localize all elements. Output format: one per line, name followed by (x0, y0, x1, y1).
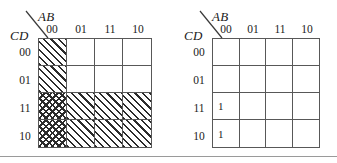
kmap-left-cell-0-1[interactable] (67, 39, 95, 66)
kmap-right-cell-2-2[interactable] (266, 93, 293, 120)
kmap-left-rowhdr-3: 10 (14, 129, 36, 143)
kmap-left-colhdr-2: 11 (96, 22, 124, 36)
kmap-right-rowhdr-2: 11 (188, 101, 210, 115)
kmap-left-cell-1-3[interactable] (123, 66, 151, 93)
kmap-left-cell-2-2[interactable] (95, 93, 123, 120)
kmap-right-rowhdr-0: 00 (188, 45, 210, 59)
kmap-right-cell-0-1[interactable] (240, 39, 267, 66)
kmap-left-column-headers: 00 01 11 10 (38, 22, 152, 36)
kmap-right-cell-3-3[interactable] (293, 120, 320, 147)
kmap-left-cell-0-0[interactable] (39, 39, 67, 66)
kmap-right-cell-3-0[interactable]: 1 (213, 120, 240, 147)
kmap-right-column-headers: 00 01 11 10 (212, 22, 320, 36)
kmap-left-colhdr-3: 10 (124, 22, 152, 36)
kmap-left-cell-0-2[interactable] (95, 39, 123, 66)
kmap-right-cell-0-0[interactable] (213, 39, 240, 66)
bottom-horizontal-rule (0, 156, 337, 157)
kmap-left: AB CD 00 01 11 10 00 01 11 10 (0, 0, 168, 155)
kmap-right-cell-2-3[interactable] (293, 93, 320, 120)
kmap-left-cell-3-3[interactable] (123, 120, 151, 147)
kmap-left-cell-1-1[interactable] (67, 66, 95, 93)
kmap-right-grid: 1 1 (212, 38, 320, 148)
kmap-left-cell-3-0[interactable] (39, 120, 67, 147)
kmap-left-rowhdr-1: 01 (14, 73, 36, 87)
kmap-left-rowhdr-0: 00 (14, 45, 36, 59)
kmap-right-cell-0-2[interactable] (266, 39, 293, 66)
kmap-left-row-headers: 00 01 11 10 (14, 38, 36, 148)
kmap-right-cell-1-1[interactable] (240, 66, 267, 93)
kmap-right-rowhdr-1: 01 (188, 73, 210, 87)
kmap-right-cell-2-0[interactable]: 1 (213, 93, 240, 120)
kmap-left-cell-0-3[interactable] (123, 39, 151, 66)
cell-value: 1 (218, 128, 224, 139)
kmap-left-cell-2-3[interactable] (123, 93, 151, 120)
kmap-left-rowhdr-2: 11 (14, 101, 36, 115)
cell-value: 1 (218, 101, 224, 112)
kmap-left-cell-3-1[interactable] (67, 120, 95, 147)
kmap-right-cell-1-3[interactable] (293, 66, 320, 93)
kmap-right-colhdr-2: 11 (266, 22, 294, 36)
kmap-right-row-headers: 00 01 11 10 (188, 38, 210, 148)
kmap-right-colhdr-1: 01 (239, 22, 267, 36)
kmap-left-cell-2-1[interactable] (67, 93, 95, 120)
kmap-right-rowhdr-3: 10 (188, 129, 210, 143)
karnaugh-map-figure: AB CD 00 01 11 10 00 01 11 10 (0, 0, 337, 163)
kmap-right-cell-1-2[interactable] (266, 66, 293, 93)
kmap-right-colhdr-3: 10 (293, 22, 321, 36)
kmap-left-colhdr-1: 01 (67, 22, 95, 36)
kmap-left-grid (38, 38, 152, 148)
kmap-right: AB CD 00 01 11 10 00 01 11 10 1 (170, 0, 337, 155)
kmap-right-cell-3-1[interactable] (240, 120, 267, 147)
kmap-left-cell-3-2[interactable] (95, 120, 123, 147)
kmap-right-cell-2-1[interactable] (240, 93, 267, 120)
kmap-right-cell-1-0[interactable] (213, 66, 240, 93)
kmap-right-colhdr-0: 00 (212, 22, 240, 36)
kmap-left-cell-2-0[interactable] (39, 93, 67, 120)
kmap-left-colhdr-0: 00 (38, 22, 66, 36)
kmap-right-cell-3-2[interactable] (266, 120, 293, 147)
kmap-left-cell-1-0[interactable] (39, 66, 67, 93)
kmap-right-cell-0-3[interactable] (293, 39, 320, 66)
kmap-left-cell-1-2[interactable] (95, 66, 123, 93)
